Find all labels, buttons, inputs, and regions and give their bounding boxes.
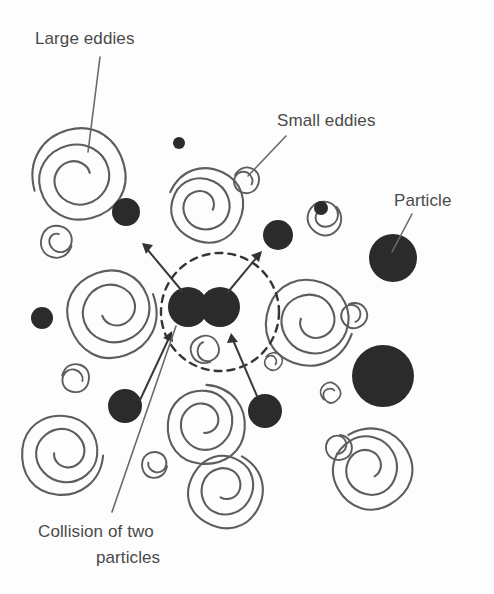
particle-dot xyxy=(352,345,414,407)
large-eddy-group xyxy=(19,118,426,541)
small-eddy-icon xyxy=(301,195,348,242)
large-eddy-icon xyxy=(176,440,277,541)
particle-dot xyxy=(31,307,53,329)
flow-arrow-lower-right xyxy=(227,333,257,396)
small-eddy-icon xyxy=(317,379,344,407)
particle-dot xyxy=(263,220,293,250)
leader-large-eddies xyxy=(88,57,100,152)
particle-group xyxy=(31,137,417,428)
small-eddy-icon xyxy=(187,332,223,367)
large-eddy-icon xyxy=(156,156,255,254)
label-large-eddies: Large eddies xyxy=(35,29,135,48)
particle-dot xyxy=(173,137,185,149)
diagram-canvas: Large eddies Small eddies Particle Colli… xyxy=(0,0,494,594)
small-eddy-icon xyxy=(36,221,76,262)
small-eddy-icon xyxy=(338,299,371,331)
colliding-particle-pair xyxy=(168,287,240,327)
small-eddy-icon xyxy=(59,361,92,395)
particle-dot xyxy=(314,201,328,215)
colliding-particle-right xyxy=(200,287,240,327)
turbulence-collision-figure: Large eddies Small eddies Particle Colli… xyxy=(0,0,494,594)
small-eddy-icon xyxy=(229,163,264,198)
particle-dot xyxy=(248,394,282,428)
large-eddy-icon xyxy=(165,382,249,467)
label-particle: Particle xyxy=(394,191,452,210)
leader-small-eddies xyxy=(248,136,286,176)
particle-dot xyxy=(112,198,140,226)
flow-arrow-upper-right xyxy=(228,251,262,292)
particle-dot xyxy=(108,389,142,423)
particle-labeled xyxy=(369,234,417,282)
large-eddy-icon xyxy=(317,413,426,523)
large-eddy-icon xyxy=(19,413,107,499)
small-eddy-icon xyxy=(140,450,169,480)
flow-arrow-upper-left xyxy=(142,243,182,291)
small-eddy-icon xyxy=(261,349,286,374)
label-collision-line1: Collision of two xyxy=(38,522,154,541)
label-collision-line2: particles xyxy=(96,548,160,567)
flow-arrow-lower-left xyxy=(140,331,173,400)
label-small-eddies: Small eddies xyxy=(277,111,376,130)
large-eddy-icon xyxy=(254,268,365,378)
large-eddy-icon xyxy=(56,258,169,370)
